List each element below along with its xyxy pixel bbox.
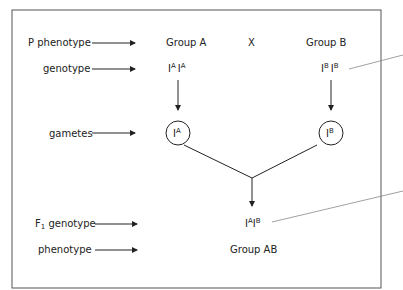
gamete-a: IA [173,127,181,139]
label-p-phenotype: P phenotype [28,37,91,48]
offspring-genotype: IAIB [245,217,261,229]
parent-a-genotype: IAIA [168,62,186,74]
pointer-line-parent-b [349,55,403,69]
parent-b-genotype: IBIB [321,62,339,74]
label-gametes: gametes [49,128,93,139]
pointer-line-offspring [272,191,403,222]
gamete-b: IB [326,127,334,139]
parent-a-group: Group A [166,37,207,48]
cross-symbol: X [248,37,255,48]
fertilization-lines [184,145,317,178]
offspring-group: Group AB [230,244,277,255]
abo-cross-diagram: P phenotype genotype gametes F1 genotype… [0,0,403,290]
label-genotype: genotype [43,63,90,74]
parent-b-group: Group B [306,37,347,48]
label-f1-genotype: F1 genotype [35,218,96,231]
label-phenotype: phenotype [38,244,92,255]
